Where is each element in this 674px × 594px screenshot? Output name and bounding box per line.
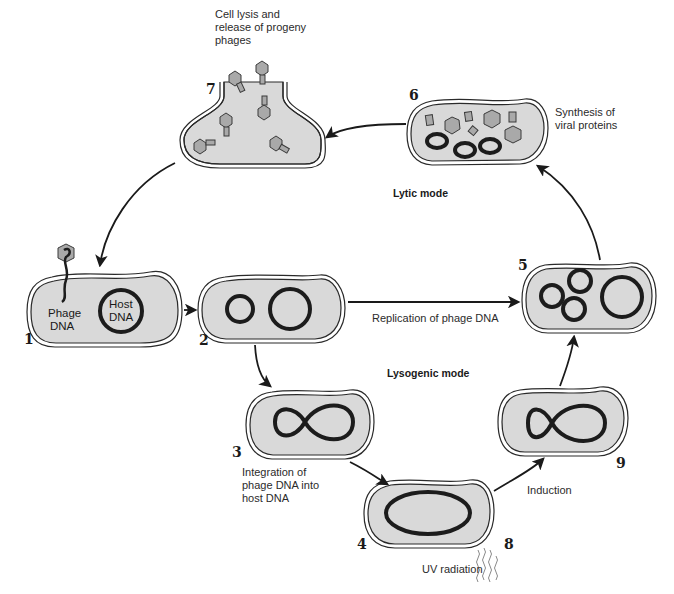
stage-number-6: 6	[409, 87, 419, 103]
synthesis-caption-line-1: Synthesis of	[555, 106, 616, 118]
uv-radiation-label: UV radiation	[422, 563, 483, 575]
cell-stage-1: Host DNA Phage DNA 1	[24, 244, 182, 347]
lysis-caption-line-2: release of progeny	[215, 21, 307, 33]
arrow-7-to-1	[100, 163, 175, 265]
host-label-1: Host	[109, 298, 133, 310]
integration-caption-line-1: Integration of	[242, 466, 307, 478]
cell-stage-3: 3 Integration of phage DNA into host DNA	[232, 390, 374, 504]
phage-cycle-diagram: Host DNA Phage DNA 1 2 3 Integration of …	[0, 0, 674, 594]
integration-caption-line-2: phage DNA into	[242, 479, 319, 491]
replication-label: Replication of phage DNA	[372, 312, 499, 324]
arrow-2-to-3	[255, 345, 270, 386]
lysis-caption-line-1: Cell lysis and	[215, 8, 280, 20]
stage-number-3: 3	[232, 444, 242, 460]
lytic-mode-label: Lytic mode	[393, 187, 448, 199]
cell-stage-9: 9	[498, 387, 628, 471]
arrow-5-to-6	[538, 166, 600, 260]
induction-label: Induction	[527, 484, 572, 496]
lysogenic-mode-label: Lysogenic mode	[387, 367, 470, 379]
stage-number-5: 5	[518, 257, 528, 273]
arrow-6-to-7	[327, 124, 406, 137]
synthesis-caption-line-2: viral proteins	[555, 119, 618, 131]
stage-number-9: 9	[616, 455, 626, 471]
phage-label-1: Phage	[48, 307, 81, 319]
cell-stage-5: 5	[518, 257, 656, 333]
stage-number-4: 4	[357, 536, 367, 552]
cell-stage-4: 4	[357, 480, 494, 552]
cell-stage-7: 7 Cell lysis and release of progeny phag…	[180, 8, 325, 168]
stage-number-8: 8	[504, 536, 514, 552]
stage-number-1: 1	[24, 331, 34, 347]
lysis-caption-line-3: phages	[215, 34, 252, 46]
integration-caption-line-3: host DNA	[242, 492, 290, 504]
cell-stage-6: 6 Synthesis of viral proteins	[407, 87, 618, 165]
host-label-2: DNA	[109, 311, 134, 323]
cell-stage-2: 2	[198, 275, 345, 348]
arrow-3-to-4	[350, 462, 387, 484]
arrow-9-to-5	[560, 337, 574, 386]
phage-label-2: DNA	[50, 320, 75, 332]
stage-number-2: 2	[199, 332, 209, 348]
stage-number-7: 7	[206, 81, 216, 97]
